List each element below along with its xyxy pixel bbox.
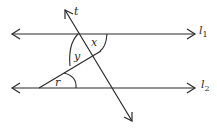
line-l1 [12, 29, 195, 39]
label-t: t [74, 5, 79, 18]
label-angle-r: r [55, 76, 61, 89]
angle-arcs [64, 34, 107, 88]
label-l1: l1 [199, 24, 208, 39]
label-l2: l2 [201, 78, 210, 93]
parallel-lines-diagram: t x y r l1 l2 [0, 0, 217, 131]
transversal-t [65, 10, 132, 121]
angle-arc-r [64, 73, 76, 88]
label-angle-y: y [73, 50, 81, 63]
angle-arc-x [100, 34, 107, 51]
label-angle-x: x [91, 36, 98, 49]
diagram-canvas: t x y r l1 l2 [0, 0, 217, 131]
